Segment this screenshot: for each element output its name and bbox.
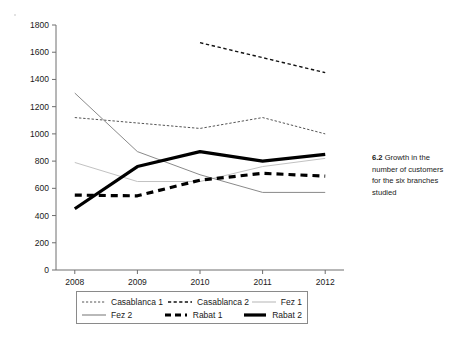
legend-item-rabat-2[interactable]: Rabat 2 xyxy=(243,308,302,321)
legend-item-casablanca-1[interactable]: Casablanca 1 xyxy=(82,295,168,308)
figure-caption: 6.2 Growth in the number of customers fo… xyxy=(372,152,446,198)
legend-item-fez-2[interactable]: Fez 2 xyxy=(82,308,164,321)
legend-label-fez-1: Fez 1 xyxy=(281,297,302,307)
y-tick-label: 1800 xyxy=(30,20,49,30)
scan-speck xyxy=(14,14,16,16)
series-line-rabat-2 xyxy=(75,152,325,209)
x-tick-label: 2008 xyxy=(65,277,84,287)
legend-label-rabat-2: Rabat 2 xyxy=(272,310,302,320)
series-line-fez-2 xyxy=(75,93,325,192)
series-line-casablanca-1 xyxy=(75,118,325,134)
data-series-group xyxy=(75,43,325,209)
legend-swatch-fez-2 xyxy=(82,310,106,320)
legend-item-casablanca-2[interactable]: Casablanca 2 xyxy=(168,295,252,308)
y-tick-label: 600 xyxy=(35,183,49,193)
legend-label-casablanca-2: Casablanca 2 xyxy=(197,297,249,307)
legend-label-fez-2: Fez 2 xyxy=(111,310,132,320)
series-line-casablanca-2 xyxy=(200,43,325,73)
legend-item-fez-1[interactable]: Fez 1 xyxy=(252,295,302,308)
legend-swatch-fez-1 xyxy=(252,297,276,307)
y-tick-label: 1400 xyxy=(30,74,49,84)
legend-swatch-rabat-1 xyxy=(164,310,188,320)
legend-swatch-casablanca-2 xyxy=(168,297,192,307)
y-tick-label: 0 xyxy=(44,265,49,275)
line-chart: 020040060080010001200140016001800 200820… xyxy=(0,0,360,290)
y-tick-label: 1200 xyxy=(30,102,49,112)
y-tick-label: 1600 xyxy=(30,47,49,57)
figure-root: 020040060080010001200140016001800 200820… xyxy=(0,0,450,337)
y-tick-label: 800 xyxy=(35,156,49,166)
y-tick-label: 400 xyxy=(35,211,49,221)
legend-swatch-rabat-2 xyxy=(243,310,267,320)
y-tick-label: 1000 xyxy=(30,129,49,139)
legend-row-2: Fez 2 Rabat 1 Rabat 2 xyxy=(82,308,302,321)
series-line-fez-1 xyxy=(75,158,325,181)
caption-number: 6.2 xyxy=(372,153,383,162)
y-axis: 020040060080010001200140016001800 xyxy=(30,20,56,275)
x-tick-label: 2011 xyxy=(253,277,272,287)
x-axis: 20082009201020112012 xyxy=(56,270,344,287)
chart-legend: Casablanca 1 Casablanca 2 Fez 1 Fez 2 xyxy=(76,291,308,324)
y-tick-label: 200 xyxy=(35,238,49,248)
x-tick-label: 2012 xyxy=(316,277,335,287)
legend-item-rabat-1[interactable]: Rabat 1 xyxy=(164,308,243,321)
legend-label-casablanca-1: Casablanca 1 xyxy=(111,297,163,307)
x-tick-label: 2009 xyxy=(128,277,147,287)
x-tick-label: 2010 xyxy=(191,277,210,287)
legend-label-rabat-1: Rabat 1 xyxy=(193,310,223,320)
legend-row-1: Casablanca 1 Casablanca 2 Fez 1 xyxy=(82,295,302,308)
caption-text: Growth in the number of customers for th… xyxy=(372,153,443,197)
chart-plot-area: 020040060080010001200140016001800 200820… xyxy=(0,0,360,290)
legend-swatch-casablanca-1 xyxy=(82,297,106,307)
